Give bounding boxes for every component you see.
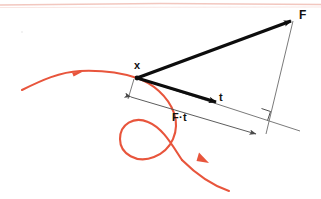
figure-canvas: F x t F·t [0, 0, 321, 199]
scan-speckle [21, 31, 22, 32]
application-point-label: x [134, 59, 141, 71]
trajectory-outgoing-tail [182, 160, 229, 191]
trajectory-curve [22, 71, 229, 191]
impulse-label: F·t [172, 111, 187, 123]
force-projection-line [266, 21, 293, 134]
force-vector-arrow [137, 21, 291, 78]
trajectory-incoming-arc [22, 71, 137, 90]
force-vector-label: F [299, 8, 306, 22]
diagram-svg: F x t F·t [0, 0, 321, 199]
time-vector-label: t [219, 91, 223, 103]
application-point-dot [135, 76, 140, 81]
impulse-dimension-line [131, 97, 256, 134]
page-top-rule [0, 4, 321, 6]
time-vector-arrow [137, 78, 216, 102]
page-top-rule-secondary [0, 7, 321, 8]
impulse-measure-line [131, 97, 256, 134]
construction-lines [128, 21, 300, 134]
dimension-extension-tick [128, 79, 134, 99]
trajectory-exit-arrow-icon [197, 153, 210, 164]
